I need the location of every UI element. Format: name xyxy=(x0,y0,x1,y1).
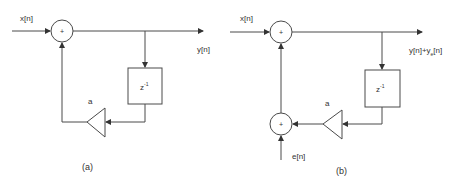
b-output-tail: [n] xyxy=(433,46,442,55)
b-adder-error-plus: + xyxy=(279,121,283,128)
a-caption: (a) xyxy=(82,163,93,172)
a-gain-label: a xyxy=(88,98,92,106)
a-delay-exponent: -1 xyxy=(144,81,148,87)
a-feedback-line xyxy=(106,104,145,122)
b-output-label: y[n]+ye[n] xyxy=(409,47,442,57)
b-error-label: e[n] xyxy=(292,153,305,161)
a-return-line xyxy=(62,43,87,122)
b-caption: (b) xyxy=(336,167,347,176)
a-gain-triangle xyxy=(87,108,105,137)
b-output-main: y[n]+y xyxy=(409,46,431,55)
a-adder-plus: + xyxy=(60,28,64,35)
a-delay-label: z-1 xyxy=(140,82,148,92)
b-adder-main-plus: + xyxy=(279,29,283,36)
b-gain-triangle xyxy=(323,110,342,139)
diagram-a xyxy=(12,20,203,137)
b-input-label: x[n] xyxy=(240,15,253,23)
b-delay-label: z-1 xyxy=(376,84,384,94)
b-gain-label: a xyxy=(325,100,329,108)
diagram-canvas xyxy=(0,0,462,186)
a-output-label: y[n] xyxy=(197,46,210,54)
diagram-b xyxy=(230,21,422,160)
b-feedback-line xyxy=(343,107,382,124)
a-input-label: x[n] xyxy=(20,15,33,23)
b-delay-exponent: -1 xyxy=(380,83,384,89)
